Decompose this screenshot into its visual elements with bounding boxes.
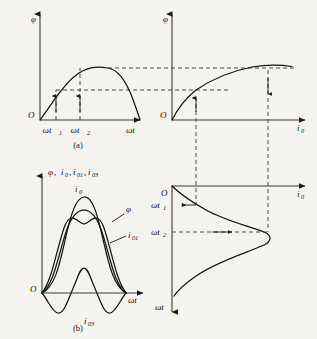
panel-a-origin-label: O <box>28 110 35 120</box>
panel-c-y-axis-label-i03: i <box>88 167 91 177</box>
panel-c-curve-phi <box>42 210 126 293</box>
panel-c-label-i0: i 0 <box>75 184 83 195</box>
panel-b: φ O i 0 <box>160 14 305 134</box>
panel-c-label-i0-text: i <box>75 184 78 194</box>
panel-c-curve-i0 <box>42 197 126 293</box>
panel-c-curve-i03 <box>42 268 126 313</box>
panel-c-curve-i01 <box>42 218 126 293</box>
panel-b-origin-label: O <box>160 110 167 120</box>
panel-d-tick-wt1-sub: 1 <box>163 204 166 211</box>
panel-c-label-i01: i 01 <box>128 230 138 241</box>
panel-c-y-axis-label-phi: φ <box>48 167 53 177</box>
panel-c-label-i0-sub: 0 <box>79 188 83 195</box>
panel-c-origin-label: O <box>30 284 37 294</box>
panel-c-label-i03-sub: 03 <box>88 320 94 327</box>
panel-c-label-i01-text: i <box>128 230 131 240</box>
panel-c-y-axis-label-i01-sub: 01 <box>77 171 83 178</box>
panel-d-tick-wt2: ωt 2 <box>151 227 166 238</box>
panel-a-caption: (a) <box>73 140 83 150</box>
figure-canvas: φ O ωt 1 ωt 2 ωt (a) φ O i 0 <box>0 0 317 339</box>
panel-a-flux-curve <box>40 67 140 120</box>
panel-c-leader-phi <box>112 214 124 222</box>
panel-a-tick-wt1: ωt 1 <box>43 125 63 136</box>
panel-c-label-i03-text: i <box>84 316 87 326</box>
panel-c-label-i01-sub: 01 <box>132 234 138 241</box>
panel-c-label-i03: i 03 <box>84 316 94 327</box>
panel-c-y-axis-label-comma2: , <box>69 167 71 177</box>
panel-b-x-axis-label: i 0 <box>297 123 305 134</box>
panel-a-tick-wt2-sub: 2 <box>87 129 90 136</box>
construction-lines <box>56 68 296 232</box>
panel-d-x-axis-label: i 0 <box>297 189 305 200</box>
panel-c: φ , i 0 , i 01 , i 03 i 0 φ i 01 <box>30 167 143 333</box>
panel-c-y-axis-label-comma3: , <box>84 167 86 177</box>
panel-d-y-axis-label: ωt <box>155 302 164 312</box>
panel-a-tick-wt1-sub: 1 <box>59 129 62 136</box>
panel-d-tick-wt1-text: ωt <box>151 200 160 210</box>
panel-b-magnetization-curve <box>172 65 292 120</box>
panel-c-y-axis-label: φ , i 0 , i 01 , i 03 <box>48 167 98 178</box>
panel-a-tick-wt2-text: ωt <box>71 125 80 135</box>
panel-c-y-axis-label-i01: i <box>73 167 76 177</box>
panel-c-y-axis-label-i0: i <box>61 167 64 177</box>
panel-b-x-axis-label-text: i <box>297 123 300 133</box>
panel-d-origin-label: O <box>161 188 168 198</box>
panel-c-y-axis-label-i03-sub: 03 <box>92 171 98 178</box>
panel-d-tick-wt1: ωt 1 <box>151 200 166 211</box>
panel-a-tick-wt1-text: ωt <box>43 125 52 135</box>
panel-c-y-axis-label-comma: , <box>54 167 56 177</box>
panel-a-tick-wt2: ωt 2 <box>71 125 91 136</box>
panel-d-current-curve <box>172 186 270 296</box>
panel-c-caption: (b) <box>73 323 83 333</box>
panel-d-x-axis-label-text: i <box>297 189 300 199</box>
panel-d-x-axis-label-sub: 0 <box>301 193 305 200</box>
figure-container: φ O ωt 1 ωt 2 ωt (a) φ O i 0 <box>0 0 317 339</box>
panel-d-tick-wt2-text: ωt <box>151 227 160 237</box>
panel-a-y-axis-label: φ <box>31 14 36 24</box>
panel-a: φ O ωt 1 ωt 2 ωt (a) <box>28 14 140 150</box>
panel-b-x-axis-label-sub: 0 <box>301 127 305 134</box>
panel-a-x-axis-label: ωt <box>126 125 135 135</box>
panel-c-leader-i01 <box>110 236 126 243</box>
panel-d: O ωt 1 ωt 2 ωt i 0 <box>151 186 305 312</box>
panel-c-x-axis-label: ωt <box>128 295 137 305</box>
panel-c-label-phi: φ <box>126 204 131 214</box>
panel-d-tick-wt2-sub: 2 <box>163 231 166 238</box>
panel-b-y-axis-label: φ <box>163 14 168 24</box>
